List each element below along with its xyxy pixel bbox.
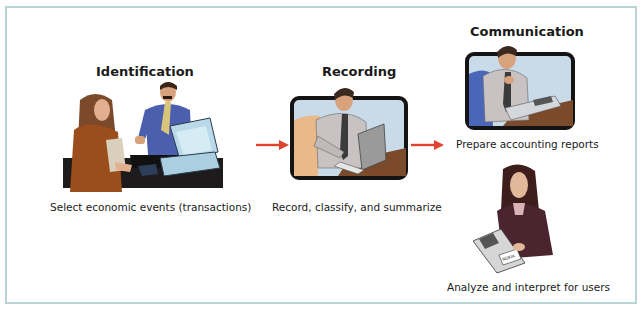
arrow-right-icon [410, 139, 446, 151]
communication-heading: Communication [470, 24, 584, 39]
identification-caption: Select economic events (transactions) [50, 201, 251, 213]
customer-and-clerk-illustration [60, 80, 230, 195]
man-typing-on-laptop-illustration [288, 86, 410, 182]
woman-reading-annual-report-illustration: NOKIA [473, 163, 568, 275]
analyze-interpret-caption: Analyze and interpret for users [447, 281, 610, 293]
man-reviewing-reports-illustration [463, 44, 577, 132]
arrow-right-icon [255, 139, 291, 151]
recording-heading: Recording [322, 64, 396, 79]
identification-heading: Identification [96, 64, 194, 79]
recording-caption: Record, classify, and summarize [272, 201, 442, 213]
prepare-reports-caption: Prepare accounting reports [456, 138, 599, 150]
